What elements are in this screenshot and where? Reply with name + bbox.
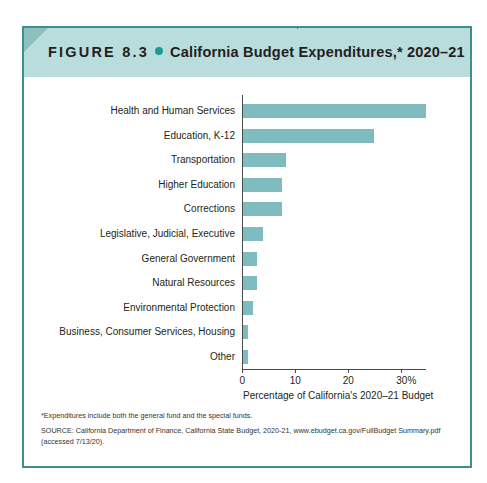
bar [243,227,263,241]
bar [243,350,248,364]
footnote: *Expenditures include both the general f… [41,411,252,420]
x-tick [401,369,402,373]
category-label: General Government [142,253,235,265]
bar [243,178,282,192]
bar [243,276,257,290]
bar [243,301,253,315]
category-label: Education, K-12 [164,130,235,142]
x-tick [295,369,296,373]
category-label: Other [210,351,235,363]
bar [243,129,374,143]
bar [243,325,248,339]
bar [243,104,426,118]
x-tick-label: 10 [290,375,301,386]
category-label: Environmental Protection [123,302,235,314]
category-label: Legislative, Judicial, Executive [100,228,235,240]
x-axis-line [242,369,426,370]
category-label: Higher Education [158,179,235,191]
category-label: Corrections [184,203,235,215]
bar [243,252,257,266]
category-label: Business, Consumer Services, Housing [59,326,235,338]
category-label: Transportation [171,154,235,166]
bar [243,202,282,216]
bar [243,153,286,167]
x-axis-title: Percentage of California's 2020–21 Budge… [243,390,433,401]
source-note: SOURCE: California Department of Finance… [41,426,441,447]
x-tick [348,369,349,373]
category-label: Health and Human Services [110,105,235,117]
x-tick-label: 30% [396,375,416,386]
x-tick-label: 0 [240,375,246,386]
x-tick-label: 20 [343,375,354,386]
x-tick [242,369,243,373]
category-label: Natural Resources [152,277,235,289]
